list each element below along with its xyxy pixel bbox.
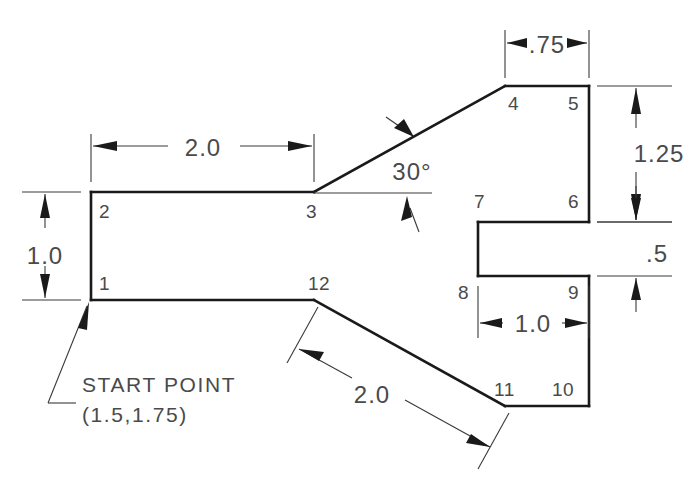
start-point-note-group: START POINT (1.5,1.75) [82, 373, 236, 426]
arrow-right-icon [565, 318, 587, 328]
arrow-left-icon [507, 38, 527, 48]
arrow-down-icon [40, 274, 50, 298]
vertex-labels-group: 1 2 3 4 5 6 7 8 9 10 11 12 [99, 93, 579, 400]
ext-line-near-11 [478, 413, 509, 469]
dim-value-height-right: 1.25 [634, 140, 685, 167]
arrow-upleft-icon [299, 349, 324, 361]
vertex-label-7: 7 [474, 191, 485, 212]
arrow-left-icon [93, 141, 117, 151]
vertex-label-12: 12 [308, 273, 330, 294]
arrow-down-into-icon [631, 198, 641, 220]
dim-value-width-slot: 1.0 [515, 310, 551, 337]
vertex-label-5: 5 [568, 93, 579, 114]
start-point-note-coords: (1.5,1.75) [82, 403, 188, 426]
vertex-label-11: 11 [494, 379, 515, 400]
vertex-label-3: 3 [306, 201, 317, 222]
dim-value-height-left: 1.0 [27, 242, 63, 269]
vertex-label-1: 1 [99, 273, 110, 294]
vertex-label-10: 10 [552, 379, 574, 400]
angle-leader-to-datum [410, 208, 419, 232]
arrow-up-icon [631, 88, 641, 114]
dim-value-length-diagonal: 2.0 [354, 381, 390, 408]
leader-arrow-icon [78, 302, 89, 330]
arrow-left-icon [480, 318, 502, 328]
vertex-label-8: 8 [458, 282, 469, 303]
dim-value-angle-slope: 30° [392, 158, 431, 185]
dim-value-slot-height: .5 [646, 240, 668, 267]
dimension-values-group: 2.0 1.0 30° .75 1.25 .5 1.0 2.0 [27, 31, 685, 408]
vertex-label-4: 4 [508, 93, 519, 114]
angle-arrow-slope-icon [394, 119, 414, 137]
dim-value-width-top-right: .75 [529, 31, 565, 58]
dimension-2-0-diagonal [287, 307, 509, 469]
arrow-up-into-icon [631, 278, 641, 300]
dim-value-width-top-left: 2.0 [185, 134, 221, 161]
vertex-label-2: 2 [99, 201, 110, 222]
arrow-up-icon [40, 194, 50, 218]
arrow-right-icon [288, 141, 312, 151]
arrow-right-icon [567, 38, 587, 48]
technical-drawing-canvas: 1 2 3 4 5 6 7 8 9 10 11 12 2.0 1.0 30° .… [0, 0, 688, 485]
profile-outline-group [91, 86, 589, 406]
start-point-note-label: START POINT [82, 373, 236, 396]
vertex-label-9: 9 [568, 282, 579, 303]
vertex-label-6: 6 [568, 191, 579, 212]
edge-11-12 [314, 300, 505, 406]
cad-drawing-svg: 1 2 3 4 5 6 7 8 9 10 11 12 2.0 1.0 30° .… [0, 0, 688, 485]
